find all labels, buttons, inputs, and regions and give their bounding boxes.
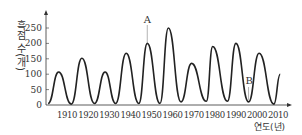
x-tick-label: 2000 — [247, 110, 267, 120]
sunspot-line — [48, 28, 280, 104]
x-tick-label: 1910 — [57, 110, 77, 120]
x-tick-label: 1960 — [163, 110, 183, 120]
y-tick-label: 100 — [25, 69, 42, 79]
plot-area: 0501001502002501910192019301940195019601… — [0, 0, 302, 135]
y-tick-label: 150 — [25, 54, 42, 64]
sunspot-chart: 흑점 수(개) 연도(년) 05010015020025019101920193… — [0, 0, 302, 135]
annotation-a-label: A — [143, 14, 152, 25]
x-tick-label: 1970 — [184, 110, 204, 120]
x-tick-label: 1950 — [141, 110, 161, 120]
x-tick-label: 1920 — [78, 110, 98, 120]
x-tick-label: 1990 — [226, 110, 246, 120]
x-tick-label: 1980 — [205, 110, 225, 120]
x-tick-label: 2010 — [268, 110, 288, 120]
x-tick-label: 1940 — [120, 110, 140, 120]
y-tick-label: 250 — [25, 23, 42, 33]
y-axis-arrow-icon — [44, 10, 48, 15]
x-axis-arrow-icon — [287, 103, 292, 107]
annotation-b-label: B — [245, 75, 252, 86]
y-tick-label: 0 — [36, 100, 42, 110]
y-tick-label: 200 — [25, 38, 42, 48]
x-tick-label: 1930 — [99, 110, 119, 120]
y-tick-label: 50 — [31, 85, 43, 95]
